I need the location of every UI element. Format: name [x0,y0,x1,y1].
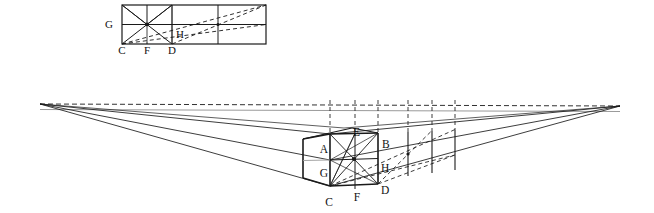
main-label-B: B [382,138,390,150]
main-label-E: E [353,126,360,138]
diagram-canvas: G H C F D [0,0,654,213]
top-label-C: C [118,44,125,56]
bay-dashed-diagonal-upper [330,130,455,187]
top-label-G: G [105,18,113,30]
top-quarter-diag-2 [147,5,172,25]
vpl-ray-to-A-top [40,104,330,134]
vpr-ray-bottom [330,106,620,186]
main-label-F: F [354,191,360,203]
top-quarter-diag-1 [122,5,147,25]
cube-edge-mid-left-receding [303,160,330,161]
perspective-diagram-svg: G H C F D [0,0,654,213]
top-label-H: H [176,28,184,40]
main-label-C: C [325,196,333,208]
main-label-H: H [381,162,389,174]
top-label-D: D [168,44,176,56]
top-label-F: F [144,44,150,56]
vpl-ray-to-back-top [40,104,344,128]
orthographic-elevation-group: G H C F D [105,5,266,56]
vpl-ray-to-G-mid [40,104,330,160]
top-bay-intersection-point [216,23,219,26]
cube-edge-bottom-left-receding [303,178,330,186]
horizon-line [40,104,620,106]
top-centre-point [145,23,149,27]
two-point-perspective-group: E A B G H C F D [40,100,620,208]
main-label-D: D [381,184,389,196]
bay-intersection-point [406,152,409,155]
main-label-G: G [320,167,328,179]
main-label-A: A [320,143,329,155]
cube-face-centre-point [352,157,356,161]
vpl-ray-to-C-bottom [40,104,330,186]
